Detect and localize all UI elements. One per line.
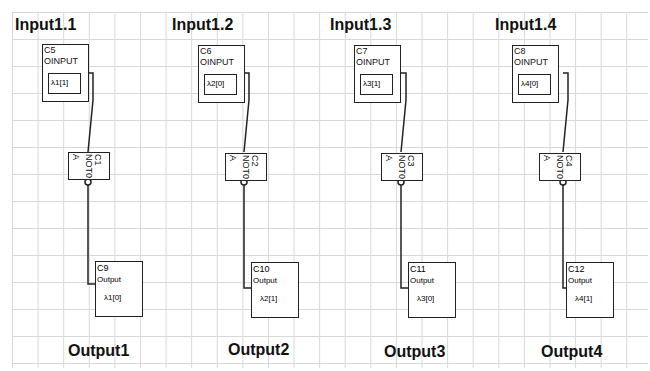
input-value: λ4[0] bbox=[521, 79, 538, 88]
component-id: C8 bbox=[514, 46, 526, 56]
not-gate[interactable]: C3 NOT0 A bbox=[381, 153, 423, 181]
input-component[interactable]: C8 OINPUT λ4[0] bbox=[512, 45, 559, 103]
input-value-box[interactable]: λ3[1] bbox=[360, 74, 393, 95]
gate-id: C3 bbox=[406, 155, 416, 167]
component-id: C9 bbox=[97, 263, 109, 273]
input-value: λ1[1] bbox=[51, 78, 68, 87]
gate-pin: A bbox=[71, 154, 81, 160]
component-id: C7 bbox=[356, 46, 368, 56]
component-id: C10 bbox=[253, 264, 270, 274]
gate-label: NOT0 bbox=[555, 155, 565, 179]
output-value: λ2[1] bbox=[260, 294, 277, 304]
output-title: Output2 bbox=[228, 341, 289, 359]
wire-c3-c11 bbox=[398, 179, 408, 288]
component-kind: OINPUT bbox=[356, 57, 390, 67]
gate-label: NOT0 bbox=[397, 155, 407, 179]
wire-c8-c4 bbox=[563, 73, 568, 152]
output-title: Output1 bbox=[68, 342, 129, 360]
gate-label: NOT0 bbox=[84, 154, 94, 178]
component-kind: Output bbox=[410, 276, 434, 286]
input-title: Input1.3 bbox=[330, 16, 391, 34]
input-value-box[interactable]: λ4[0] bbox=[518, 74, 551, 95]
output-value: λ3[0] bbox=[417, 294, 434, 304]
component-kind: OINPUT bbox=[514, 57, 548, 67]
output-title: Output3 bbox=[384, 343, 445, 361]
gate-pin: A bbox=[542, 155, 552, 161]
component-kind: OINPUT bbox=[200, 57, 234, 67]
gate-label: NOT0 bbox=[241, 155, 251, 179]
component-kind: OINPUT bbox=[44, 56, 78, 66]
not-gate[interactable]: C4 NOT0 A bbox=[539, 153, 581, 181]
input-component[interactable]: C6 OINPUT λ2[0] bbox=[198, 45, 245, 103]
output-component[interactable]: C10 Output λ2[1] bbox=[251, 262, 299, 318]
component-id: C12 bbox=[568, 264, 585, 274]
component-kind: Output bbox=[253, 276, 277, 286]
component-id: C5 bbox=[44, 45, 56, 55]
wire-c1-c9 bbox=[85, 179, 95, 284]
input-value: λ3[1] bbox=[363, 79, 380, 88]
gate-id: C1 bbox=[93, 154, 103, 166]
input-value: λ2[0] bbox=[207, 79, 224, 88]
not-gate[interactable]: C1 NOT0 A bbox=[68, 152, 110, 180]
input-component[interactable]: C7 OINPUT λ3[1] bbox=[354, 45, 401, 103]
input-title: Input1.1 bbox=[15, 16, 76, 34]
output-title: Output4 bbox=[541, 343, 602, 361]
component-kind: Output bbox=[97, 275, 121, 285]
gate-id: C2 bbox=[250, 155, 260, 167]
schematic-canvas: Input1.1 C5 OINPUT λ1[1] C1 NOT0 A C9 Ou… bbox=[0, 0, 650, 371]
output-value: λ1[0] bbox=[104, 293, 121, 303]
gate-id: C4 bbox=[564, 155, 574, 167]
input-title: Input1.2 bbox=[172, 16, 233, 34]
input-component[interactable]: C5 OINPUT λ1[1] bbox=[42, 44, 89, 102]
input-value-box[interactable]: λ2[0] bbox=[204, 74, 237, 95]
gate-pin: A bbox=[228, 155, 238, 161]
component-kind: Output bbox=[568, 276, 592, 286]
output-component[interactable]: C12 Output λ4[1] bbox=[566, 262, 614, 318]
input-value-box[interactable]: λ1[1] bbox=[48, 73, 81, 94]
wire-c2-c10 bbox=[241, 179, 251, 288]
component-id: C6 bbox=[200, 46, 212, 56]
output-component[interactable]: C11 Output λ3[0] bbox=[408, 262, 456, 318]
gate-pin: A bbox=[384, 155, 394, 161]
input-title: Input1.4 bbox=[495, 16, 556, 34]
output-component[interactable]: C9 Output λ1[0] bbox=[95, 261, 143, 317]
output-value: λ4[1] bbox=[575, 294, 592, 304]
component-id: C11 bbox=[410, 264, 426, 274]
not-gate[interactable]: C2 NOT0 A bbox=[225, 153, 267, 181]
wire-c7-c3 bbox=[401, 73, 406, 152]
